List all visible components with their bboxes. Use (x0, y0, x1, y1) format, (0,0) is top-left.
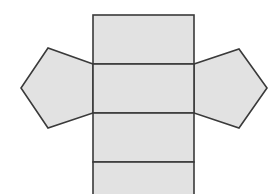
rect-face-middle (93, 64, 194, 113)
pentagonal-prism-net-diagram (0, 0, 273, 194)
net-faces (21, 15, 267, 194)
pentagon-face-right (194, 49, 267, 128)
rect-face-top (93, 15, 194, 64)
rect-face-lower (93, 113, 194, 162)
rect-face-bottom (93, 162, 194, 194)
pentagon-face-left (21, 48, 93, 128)
